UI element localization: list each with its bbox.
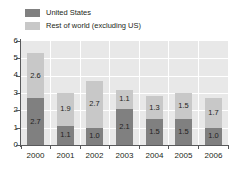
gridline-y-5 bbox=[21, 58, 228, 59]
x-tick-label-2002: 2002 bbox=[78, 151, 112, 160]
bar-group-2001[interactable]: 1.91.1 bbox=[57, 93, 74, 145]
gridline-x-6 bbox=[198, 41, 199, 145]
x-tick-4 bbox=[139, 146, 140, 149]
gridline-x-1 bbox=[50, 41, 51, 145]
legend-item-rest-of-world: Rest of world (excluding US) bbox=[25, 20, 215, 31]
bar-value-label-united-states-2000: 2.7 bbox=[27, 118, 44, 126]
legend-item-united-states: United States bbox=[25, 7, 215, 18]
x-tick-label-2000: 2000 bbox=[19, 151, 53, 160]
bar-segment-united-states-2000[interactable]: 2.7 bbox=[27, 98, 44, 145]
bar-segment-rest-of-world-2005[interactable]: 1.5 bbox=[175, 93, 192, 119]
bar-value-label-united-states-2003: 2.1 bbox=[116, 123, 133, 131]
y-tick-6 bbox=[16, 41, 20, 42]
bar-segment-united-states-2005[interactable]: 1.5 bbox=[175, 119, 192, 145]
x-tick-1 bbox=[50, 146, 51, 149]
bar-group-2000[interactable]: 2.62.7 bbox=[27, 53, 44, 145]
bar-group-2003[interactable]: 1.12.1 bbox=[116, 90, 133, 145]
x-tick-2 bbox=[80, 146, 81, 149]
bar-value-label-united-states-2006: 1.0 bbox=[205, 132, 222, 140]
bar-value-label-rest-of-world-2003: 1.1 bbox=[116, 95, 133, 103]
gridline-x-4 bbox=[139, 41, 140, 145]
y-tick-0 bbox=[16, 145, 20, 146]
legend-label-rest-of-world: Rest of world (excluding US) bbox=[46, 21, 141, 30]
bar-group-2006[interactable]: 1.71.0 bbox=[205, 98, 222, 145]
bar-segment-rest-of-world-2003[interactable]: 1.1 bbox=[116, 90, 133, 109]
bar-segment-united-states-2004[interactable]: 1.5 bbox=[146, 119, 163, 145]
x-tick-3 bbox=[109, 146, 110, 149]
bar-value-label-rest-of-world-2004: 1.3 bbox=[146, 104, 163, 112]
bar-value-label-united-states-2005: 1.5 bbox=[175, 128, 192, 136]
bar-value-label-rest-of-world-2005: 1.5 bbox=[175, 102, 192, 110]
y-tick-1 bbox=[16, 128, 20, 129]
legend-swatch-united-states bbox=[25, 9, 40, 17]
bar-group-2002[interactable]: 2.71.0 bbox=[86, 81, 103, 145]
bar-segment-united-states-2002[interactable]: 1.0 bbox=[86, 128, 103, 145]
gridline-y-4 bbox=[21, 76, 228, 77]
bar-segment-rest-of-world-2001[interactable]: 1.9 bbox=[57, 93, 74, 126]
bar-group-2004[interactable]: 1.31.5 bbox=[146, 96, 163, 145]
bar-value-label-united-states-2001: 1.1 bbox=[57, 131, 74, 139]
bar-segment-rest-of-world-2004[interactable]: 1.3 bbox=[146, 96, 163, 119]
legend-label-united-states: United States bbox=[46, 8, 91, 17]
gridline-x-2 bbox=[80, 41, 81, 145]
gridline-x-5 bbox=[168, 41, 169, 145]
y-axis-tick-labels: 6 5 4 3 2 1 0 bbox=[0, 0, 18, 169]
plot-area: 2.62.71.91.12.71.01.12.11.31.51.51.51.71… bbox=[21, 41, 228, 145]
gridline-x-3 bbox=[109, 41, 110, 145]
x-tick-label-2003: 2003 bbox=[108, 151, 142, 160]
bar-group-2005[interactable]: 1.51.5 bbox=[175, 93, 192, 145]
y-tick-5 bbox=[16, 58, 20, 59]
bar-segment-united-states-2001[interactable]: 1.1 bbox=[57, 126, 74, 145]
x-axis-tick-labels: 2000200120022003200420052006 bbox=[0, 151, 236, 165]
bar-value-label-rest-of-world-2000: 2.6 bbox=[27, 72, 44, 80]
bar-value-label-rest-of-world-2001: 1.9 bbox=[57, 105, 74, 113]
bar-value-label-rest-of-world-2006: 1.7 bbox=[205, 109, 222, 117]
legend-swatch-rest-of-world bbox=[25, 22, 40, 30]
x-tick-5 bbox=[168, 146, 169, 149]
bar-value-label-united-states-2004: 1.5 bbox=[146, 128, 163, 136]
bar-value-label-rest-of-world-2002: 2.7 bbox=[86, 100, 103, 108]
y-tick-4 bbox=[16, 76, 20, 77]
bar-segment-rest-of-world-2002[interactable]: 2.7 bbox=[86, 81, 103, 128]
bar-segment-united-states-2006[interactable]: 1.0 bbox=[205, 128, 222, 145]
x-tick-7 bbox=[228, 146, 229, 149]
y-tick-2 bbox=[16, 110, 20, 111]
x-tick-label-2005: 2005 bbox=[167, 151, 201, 160]
x-tick-label-2006: 2006 bbox=[197, 151, 231, 160]
x-tick-6 bbox=[198, 146, 199, 149]
y-tick-label-4: 4 bbox=[4, 71, 18, 79]
chart-legend: United States Rest of world (excluding U… bbox=[25, 7, 215, 33]
x-tick-0 bbox=[21, 146, 22, 149]
bar-value-label-united-states-2002: 1.0 bbox=[86, 132, 103, 140]
bar-segment-united-states-2003[interactable]: 2.1 bbox=[116, 109, 133, 145]
stacked-bar-chart: United States Rest of world (excluding U… bbox=[0, 0, 236, 169]
y-tick-3 bbox=[16, 93, 20, 94]
bar-segment-rest-of-world-2000[interactable]: 2.6 bbox=[27, 53, 44, 98]
bar-segment-rest-of-world-2006[interactable]: 1.7 bbox=[205, 98, 222, 127]
